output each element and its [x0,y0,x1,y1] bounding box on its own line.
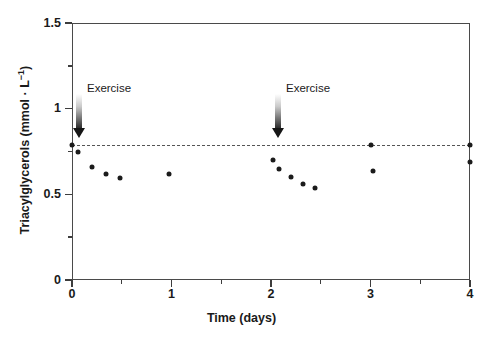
y-tick-minor [68,151,72,152]
y-tick-major [65,108,72,110]
data-point [300,182,305,187]
data-point [75,150,80,155]
x-tick-label: 3 [351,288,391,301]
y-tick-label: 0.5 [44,188,61,201]
data-point [288,175,293,180]
data-point [468,142,473,147]
data-point [276,166,281,171]
y-tick-label: 1 [54,102,61,115]
x-tick-minor [121,280,122,284]
y-tick-major [65,194,72,196]
y-tick-minor [68,236,72,237]
data-point [468,159,473,164]
data-point [371,169,376,174]
exercise-arrow-head-icon [272,128,284,138]
x-tick-minor [320,280,321,284]
x-tick-major [71,280,73,287]
exercise-label: Exercise [286,82,330,94]
exercise-label: Exercise [87,82,131,94]
x-tick-major [469,280,471,287]
data-point [368,142,373,147]
x-tick-label: 1 [152,288,192,301]
x-tick-label: 0 [52,288,92,301]
y-tick-label: 1.5 [44,17,61,30]
y-axis-title-superscript: −1 [16,70,26,80]
exercise-arrow-shaft-icon [76,94,82,130]
x-tick-label: 4 [450,288,483,301]
data-point [312,186,317,191]
y-axis-title: Triacylglycerols (mmol · L−1) [16,30,32,270]
x-tick-minor [221,280,222,284]
x-tick-major [270,280,272,287]
y-axis-title-tail: ) [18,66,32,70]
y-tick-major [65,22,72,24]
x-tick-major [171,280,173,287]
data-point [89,164,94,169]
x-tick-minor [420,280,421,284]
exercise-arrow-shaft-icon [275,94,281,130]
exercise-arrow-head-icon [73,128,85,138]
data-point [270,158,275,163]
x-tick-label: 2 [251,288,291,301]
baseline-reference-line [72,145,470,146]
figure-container: Triacylglycerols (mmol · L−1) Time (days… [0,0,483,344]
x-tick-major [370,280,372,287]
data-point [103,171,108,176]
plot-area [72,23,470,280]
data-point [70,142,75,147]
x-axis-title: Time (days) [0,311,483,325]
data-point [166,171,171,176]
y-tick-label: 0 [54,274,61,287]
y-tick-minor [68,65,72,66]
y-axis-title-main: Triacylglycerols (mmol · L [18,80,32,234]
data-point [117,176,122,181]
